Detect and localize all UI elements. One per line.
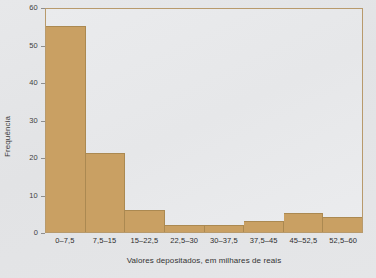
plot-area bbox=[45, 8, 363, 233]
bar bbox=[284, 213, 324, 232]
plot-inner bbox=[46, 9, 362, 232]
y-axis-tick-label: 10 bbox=[29, 191, 38, 200]
y-axis-tick-label: 50 bbox=[29, 41, 38, 50]
y-axis-tick-label: 0 bbox=[34, 228, 38, 237]
x-axis-tick-label: 7,5–15 bbox=[85, 236, 125, 245]
y-axis-tick-label: 30 bbox=[29, 116, 38, 125]
histogram-chart: Frequência 0102030405060 0–7,57,5–1515–2… bbox=[0, 0, 376, 278]
bar bbox=[323, 217, 362, 232]
x-axis-tick-label: 52,5–60 bbox=[323, 236, 363, 245]
x-axis-title: Valores depositados, em milhares de reai… bbox=[45, 256, 363, 265]
bar bbox=[46, 26, 86, 232]
bar bbox=[165, 225, 205, 233]
bar bbox=[244, 221, 284, 232]
bar bbox=[125, 210, 165, 233]
y-axis-tick-mark bbox=[41, 233, 45, 234]
y-axis-ticks: 0102030405060 bbox=[0, 8, 45, 233]
y-axis-tick-label: 40 bbox=[29, 78, 38, 87]
x-axis-tick-labels: 0–7,57,5–1515–22,522,5–3030–37,537,5–454… bbox=[45, 236, 363, 245]
bar bbox=[205, 225, 245, 233]
x-axis-tick-label: 0–7,5 bbox=[45, 236, 85, 245]
y-axis-tick-label: 60 bbox=[29, 3, 38, 12]
x-axis-tick-label: 30–37,5 bbox=[204, 236, 244, 245]
y-axis-tick-label: 20 bbox=[29, 153, 38, 162]
x-axis-tick-label: 37,5–45 bbox=[244, 236, 284, 245]
bar bbox=[86, 153, 126, 232]
bar-series bbox=[46, 9, 362, 232]
x-axis-tick-label: 45–52,5 bbox=[284, 236, 324, 245]
x-axis-tick-label: 22,5–30 bbox=[164, 236, 204, 245]
x-axis-tick-label: 15–22,5 bbox=[125, 236, 165, 245]
